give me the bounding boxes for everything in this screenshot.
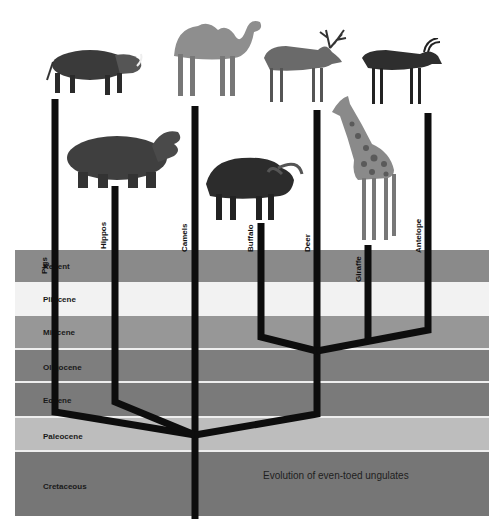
- lineage-label-camels: Camels: [180, 224, 189, 252]
- warthog-icon: [45, 40, 150, 98]
- lineage-label-pigs: Pigs: [40, 257, 49, 274]
- branch-ruminants: [195, 350, 317, 435]
- lineage-label-buffalo: Buffalo: [246, 224, 255, 252]
- lineage-label-antelope: Antelope: [414, 219, 423, 253]
- buffalo-icon: [202, 150, 308, 222]
- lineage-label-deer: Deer: [303, 234, 312, 252]
- deer-icon: [256, 28, 352, 104]
- giraffe-icon: [328, 94, 408, 244]
- camel-icon: [168, 16, 264, 101]
- lineage-label-giraffe: Giraffe: [354, 256, 363, 282]
- lineage-label-hippos: Hippos: [99, 222, 108, 249]
- diagram-title: Evolution of even-toed ungulates: [263, 470, 409, 481]
- hippopotamus-icon: [62, 122, 184, 194]
